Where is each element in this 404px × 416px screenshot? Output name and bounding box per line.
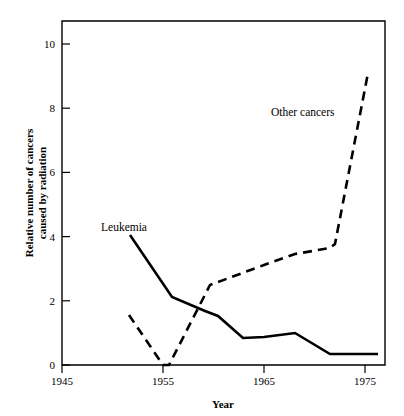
y-tick-label-4: 4 bbox=[50, 231, 56, 243]
plot-frame bbox=[62, 21, 385, 365]
y-tick-label-2: 2 bbox=[50, 295, 56, 307]
y-tick-label-6: 6 bbox=[50, 166, 56, 178]
y-axis-title: Relative number of cancers caused by rad… bbox=[23, 128, 48, 257]
y-tick-label-10: 10 bbox=[44, 38, 56, 50]
x-axis-tick-labels: 1945 1955 1965 1975 bbox=[51, 375, 377, 387]
y-tick-label-0: 0 bbox=[50, 359, 56, 371]
series-annotation-other-cancers: Other cancers bbox=[271, 106, 335, 118]
y-axis-title-line1: Relative number of cancers bbox=[23, 128, 35, 257]
x-axis-ticks bbox=[62, 365, 365, 373]
y-tick-label-8: 8 bbox=[50, 102, 56, 114]
series-annotation-leukemia: Leukemia bbox=[101, 221, 147, 233]
y-axis-ticks bbox=[62, 44, 70, 365]
x-axis-title: Year bbox=[212, 398, 234, 410]
cancer-radiation-line-chart: 0 2 4 6 8 10 1945 1955 1965 1975 Year Re… bbox=[0, 0, 404, 416]
chart-figure: 0 2 4 6 8 10 1945 1955 1965 1975 Year Re… bbox=[0, 0, 404, 416]
y-axis-title-line2: caused by radiation bbox=[36, 147, 48, 239]
x-tick-label-1955: 1955 bbox=[152, 375, 175, 387]
series-line-leukemia bbox=[130, 235, 378, 354]
x-tick-label-1965: 1965 bbox=[253, 375, 276, 387]
x-tick-label-1945: 1945 bbox=[51, 375, 74, 387]
x-tick-label-1975: 1975 bbox=[354, 375, 377, 387]
